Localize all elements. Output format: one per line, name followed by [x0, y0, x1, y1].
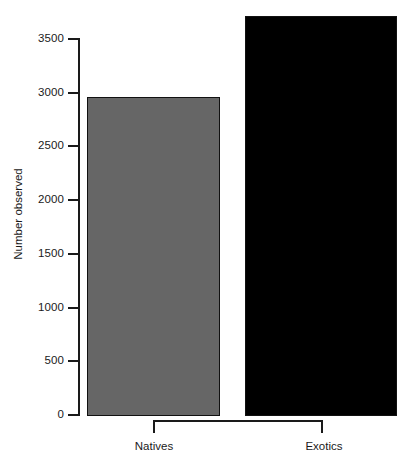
y-tick-mark-0 — [68, 414, 79, 416]
y-tick-label-0-wrap: 0 — [0, 409, 64, 421]
y-tick-mark-2500 — [68, 145, 79, 147]
x-label-exotics: Exotics — [278, 440, 370, 452]
y-tick-mark-3500 — [68, 38, 79, 40]
y-tick-label-3500-wrap: 3500 — [0, 33, 64, 45]
y-tick-label-500-wrap: 500 — [0, 355, 64, 367]
y-tick-mark-500 — [68, 360, 79, 362]
y-tick-label-3500: 3500 — [2, 33, 64, 45]
x-axis-bracket — [153, 420, 323, 433]
y-tick-label-3000: 3000 — [2, 87, 64, 99]
bar-natives[interactable] — [87, 97, 220, 416]
bar-exotics[interactable] — [245, 16, 397, 416]
x-label-natives: Natives — [108, 440, 200, 452]
y-tick-label-1000-wrap: 1000 — [0, 302, 64, 314]
y-tick-label-3000-wrap: 3000 — [0, 87, 64, 99]
y-tick-label-0: 0 — [2, 409, 64, 421]
y-tick-mark-1000 — [68, 307, 79, 309]
y-axis-title: Number observed — [12, 144, 24, 284]
bar-chart-figure: 0 500 1000 1500 2000 2500 3000 3500 Numb… — [0, 0, 407, 468]
y-tick-mark-3000 — [68, 92, 79, 94]
y-tick-mark-2000 — [68, 199, 79, 201]
y-tick-label-2500-wrap: 2500 — [0, 140, 64, 152]
y-tick-label-500: 500 — [2, 355, 64, 367]
y-tick-label-1500-wrap: 1500 — [0, 248, 64, 260]
y-tick-mark-1500 — [68, 253, 79, 255]
y-tick-label-2000-wrap: 2000 — [0, 194, 64, 206]
y-tick-label-1000: 1000 — [2, 302, 64, 314]
